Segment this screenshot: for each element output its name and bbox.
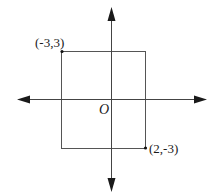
origin-label: O (99, 102, 109, 117)
point-dot-bottom-right (144, 146, 147, 149)
x-axis-left-arrow-icon (17, 96, 30, 104)
point-label-top-left: (-3,3) (35, 35, 64, 50)
point-dot-top-left (60, 50, 63, 53)
x-axis-right-arrow-icon (194, 96, 207, 104)
y-axis-up-arrow-icon (108, 7, 116, 21)
coordinate-diagram: (-3,3) (2,-3) O (0, 0, 211, 194)
point-label-bottom-right: (2,-3) (149, 141, 178, 156)
y-axis-down-arrow-icon (108, 178, 116, 192)
